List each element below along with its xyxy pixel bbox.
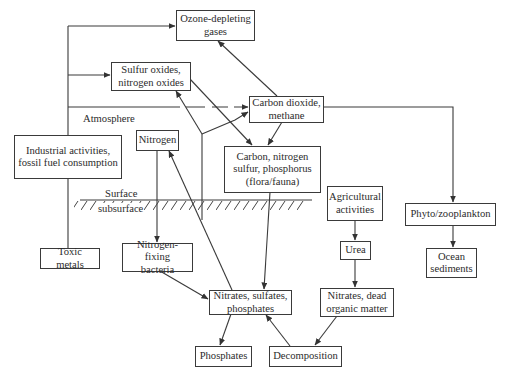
subsurface-label: subsurface — [97, 203, 144, 214]
node-nitrates-dead-organic-matter: Nitrates, dead organic matter — [320, 288, 394, 317]
node-nitrates-sulfates-phosphates: Nitrates, sulfates, phosphates — [209, 290, 292, 315]
node-toxic-metals: Toxic metals — [40, 248, 100, 269]
node-decomposition: Decomposition — [269, 346, 342, 367]
node-phyto-zooplankton: Phyto/zooplankton — [405, 203, 496, 226]
node-phosphates: Phosphates — [195, 346, 252, 367]
node-urea: Urea — [340, 241, 371, 260]
node-nitrogen-fixing-bacteria: Nitrogen-fixing bacteria — [122, 243, 193, 272]
node-carbon-dioxide-methane: Carbon dioxide, methane — [249, 96, 324, 123]
node-carbon-nitrogen-sulfur-phosphorus: Carbon, nitrogen sulfur, phosphorus (flo… — [224, 146, 321, 193]
node-industrial-activities: Industrial activities, fossil fuel consu… — [14, 135, 122, 179]
node-agricultural-activities: Agricultural activities — [327, 186, 383, 221]
node-ocean-sediments: Ocean sediments — [426, 248, 477, 278]
surface-label: Surface — [104, 188, 138, 199]
node-ozone-depleting-gases: Ozone-depleting gases — [176, 10, 255, 41]
node-nitrogen: Nitrogen — [136, 130, 179, 151]
atmosphere-label: Atmosphere — [82, 113, 136, 124]
node-sulfur-nitrogen-oxides: Sulfur oxides, nitrogen oxides — [111, 62, 191, 91]
cycle-diagram: Atmosphere Surface subsurface Ozone-depl… — [0, 0, 509, 379]
